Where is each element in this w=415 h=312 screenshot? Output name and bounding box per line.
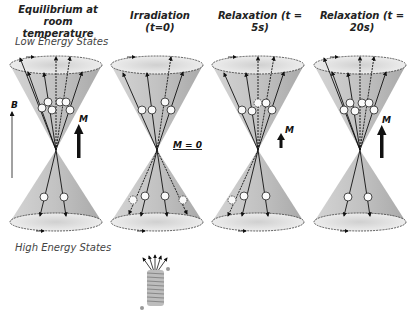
- svg-text:M: M: [285, 125, 294, 135]
- lower-cone: [10, 150, 102, 231]
- svg-text:M: M: [382, 115, 391, 125]
- magnetization-arrow-icon: M: [74, 114, 88, 158]
- panel-equilibrium: M: [10, 56, 102, 231]
- panel-irradiation: M = 0: [111, 56, 203, 231]
- magnetization-arrow-icon: M: [377, 115, 391, 158]
- rf-coil-icon: [140, 255, 170, 310]
- svg-text:B: B: [11, 100, 18, 110]
- magnetization-arrow-small-icon: M: [277, 125, 294, 148]
- panel-relaxation-20s: M: [314, 56, 406, 231]
- svg-text:M: M: [79, 114, 88, 124]
- spin-cones-diagram: B: [0, 0, 415, 312]
- b-field-arrow-icon: B: [11, 100, 18, 178]
- panel-relaxation-5s: M: [212, 56, 304, 231]
- m-zero-label: M = 0: [173, 140, 202, 150]
